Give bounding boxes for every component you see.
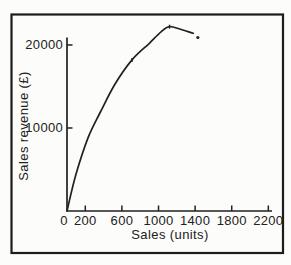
x-tick-label: 1400 [180,213,210,228]
y-axis-title: Sales revenue (£) [16,71,31,180]
x-tick-label: 2200 [253,213,283,228]
plot-area: 200600100014001800220001000020000 [25,25,283,228]
x-tick-label: 1000 [143,213,173,228]
revenue-curve [67,27,193,211]
x-tick-label: 600 [111,213,134,228]
x-tick-label: 0 [60,213,68,228]
x-tick-label: 200 [74,213,97,228]
figure-frame: 200600100014001800220001000020000 Sales … [0,0,291,265]
x-axis-title: Sales (units) [131,227,208,242]
y-tick-label: 20000 [25,37,63,52]
axis-lines [67,38,272,212]
sales-revenue-chart: 200600100014001800220001000020000 Sales … [0,0,291,265]
isolated-data-point [196,36,199,39]
x-tick-label: 1800 [217,213,247,228]
